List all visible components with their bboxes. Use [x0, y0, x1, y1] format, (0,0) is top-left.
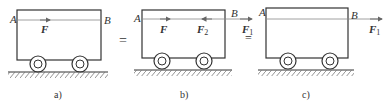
point-b-label-b: B: [231, 8, 238, 19]
point-b-label-c: B: [351, 10, 358, 21]
caption-a: a): [54, 90, 62, 100]
force-transmissibility-diagram: A B F a) = A B F F2 F1 = b) A B F1 c): [0, 0, 386, 107]
force-f-label-b: F: [160, 24, 167, 35]
force-f2-label-b: F2: [197, 24, 208, 37]
caption-c: c): [302, 90, 310, 100]
point-a-label-b: A: [134, 13, 141, 24]
point-a-label-c: A: [259, 7, 266, 18]
force-f-label-a: F: [41, 24, 48, 35]
caption-b: b): [180, 90, 188, 100]
force-f2-subscript: 2: [204, 28, 208, 37]
equals-sign: =: [119, 34, 127, 48]
force-f1-subscript-c: 1: [376, 28, 380, 37]
panel-c-cart: [258, 8, 382, 76]
point-a-label-a: A: [10, 14, 17, 25]
panel-b-cart: [134, 10, 252, 76]
force-f1-label-c: F1: [369, 24, 380, 37]
panel-a-cart: [8, 10, 108, 78]
point-b-label-a: B: [104, 15, 111, 26]
equal-magnitude-mark: =: [245, 32, 252, 44]
